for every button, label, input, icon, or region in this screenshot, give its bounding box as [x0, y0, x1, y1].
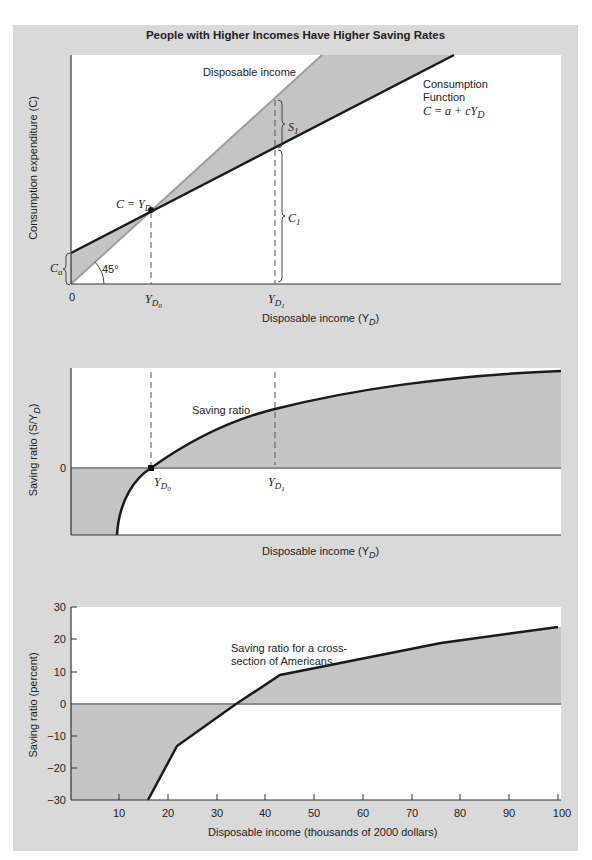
angle-45-label: 45° [102, 263, 119, 275]
zero-crossing-point [148, 465, 154, 471]
y-axis-label-2: Saving ratio (S/YD) [27, 404, 42, 497]
svg-text:−20: −20 [47, 762, 66, 774]
x-tick-yd1: YD1 [268, 292, 285, 310]
svg-text:90: 90 [503, 807, 515, 819]
svg-text:−10: −10 [47, 730, 66, 742]
panel-cross-section: 30 20 10 0 −10 −20 −30 10 20 30 40 50 60… [27, 601, 571, 838]
consumption-function-label-2: Function [423, 91, 465, 103]
svg-text:20: 20 [54, 633, 66, 645]
svg-text:80: 80 [454, 807, 466, 819]
svg-text:10: 10 [113, 807, 125, 819]
x-axis-label-3: Disposable income (thousands of 2000 dol… [208, 826, 437, 838]
consumption-equation: C = a + cYD [423, 104, 485, 120]
svg-text:100: 100 [553, 807, 571, 819]
svg-text:30: 30 [54, 601, 66, 613]
y-tick-zero-2: 0 [60, 462, 66, 474]
panel-consumption: Disposable income Consumption Function C… [27, 55, 561, 327]
y-tick-labels-3: 30 20 10 0 −10 −20 −30 [47, 601, 66, 806]
ca-brace [63, 253, 70, 285]
charts-svg: Disposable income Consumption Function C… [0, 0, 592, 860]
saving-ratio-label: Saving ratio [192, 404, 250, 416]
panel-saving-ratio: Saving ratio 0 YD0 YD1 Disposable income… [27, 368, 561, 560]
svg-text:50: 50 [308, 807, 320, 819]
x-tick-0: 0 [69, 291, 75, 303]
x-tick-yd0: YD0 [145, 292, 162, 310]
y-axis-label-3: Saving ratio (percent) [27, 652, 39, 757]
x-axis-label-2: Disposable income (YD) [262, 545, 379, 560]
cross-section-label-2: section of Americans [231, 655, 333, 667]
ca-label: Ca [50, 261, 63, 277]
svg-text:60: 60 [357, 807, 369, 819]
svg-text:20: 20 [162, 807, 174, 819]
cross-section-label-1: Saving ratio for a cross- [231, 642, 347, 654]
svg-text:70: 70 [406, 807, 418, 819]
svg-text:30: 30 [211, 807, 223, 819]
svg-text:40: 40 [259, 807, 271, 819]
x-axis-label-1: Disposable income (YD) [262, 312, 379, 327]
consumption-function-label-1: Consumption [423, 78, 488, 90]
x-tick-labels-3: 10 20 30 40 50 60 70 80 90 100 [113, 807, 571, 819]
svg-text:−30: −30 [47, 794, 66, 806]
y-axis-label-1: Consumption expenditure (C) [27, 96, 39, 240]
disposable-income-label: Disposable income [203, 66, 296, 78]
svg-text:0: 0 [60, 698, 66, 710]
svg-text:10: 10 [54, 666, 66, 678]
